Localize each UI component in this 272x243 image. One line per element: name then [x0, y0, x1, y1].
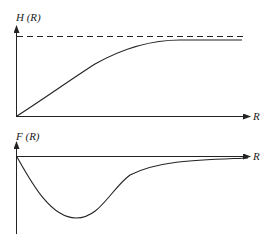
- h-curve: [17, 40, 242, 116]
- top-plot: H (R) R: [15, 11, 260, 122]
- bottom-y-label: F (R): [15, 130, 40, 143]
- bottom-x-label: R: [252, 150, 260, 162]
- diagram-canvas: H (R) R F (R) R: [0, 0, 272, 243]
- top-x-label: R: [252, 110, 260, 122]
- bottom-plot: F (R) R: [15, 130, 260, 234]
- top-y-label: H (R): [15, 11, 41, 24]
- f-curve: [17, 157, 248, 218]
